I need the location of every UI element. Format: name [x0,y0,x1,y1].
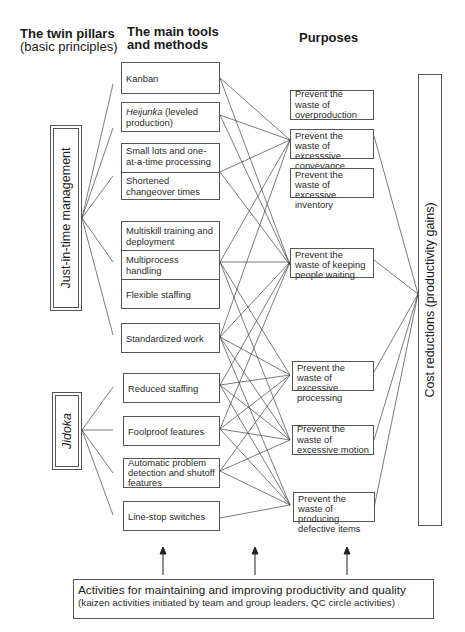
tool-heijunka: Heijunka (leveled production) [121,102,220,132]
tool-line-stop-switches: Line-stop switches [123,501,220,531]
purposes-header: Purposes [299,31,358,44]
tool-small-lots: Small lots and one-at-a-time processing [121,143,220,173]
purpose-processing: Prevent the waste of excessive processin… [292,361,374,391]
outcome-cost-reductions: Cost reductions (productivity gains) [418,74,442,526]
tool-shortened-changeover: Shortened changeover times [121,172,220,200]
connector-lines [0,0,465,632]
pillar-jidoka: Jidoka [52,392,82,470]
tool-multiprocess-handling: Multiprocess handling [121,250,220,280]
pillar-just-in-time: Just-in-time management [50,125,82,311]
tool-foolproof-features: Foolproof features [123,416,220,446]
pillars-header: The twin pillars (basic principles) [20,27,118,53]
tool-reduced-staffing: Reduced staffing [123,373,220,403]
purpose-motion: Prevent the waste of excessive motion [292,425,374,455]
tool-kanban: Kanban [121,62,220,94]
purpose-overproduction: Prevent the waste of overproduction [290,90,374,120]
tool-automatic-problem-detection: Automatic problem detection and shutoff … [123,458,220,488]
tool-flexible-staffing: Flexible staffing [121,279,220,309]
tool-multiskill-training: Multiskill training and deployment [121,221,220,251]
purpose-conveyance: Prevent the waste of excesssive conveyan… [290,129,374,159]
tool-standardized-work: Standardized work [121,323,220,353]
purpose-defective: Prevent the waste of producing defective… [293,492,375,522]
tools-header: The main tools and methods [127,25,219,51]
activities-subtitle: (kaizen activities initiated by team and… [78,597,429,609]
pillar-jidoka-label: Jidoka [60,413,74,449]
pillars-header-subtitle: (basic principles) [20,39,118,54]
tools-header-line2: and methods [127,37,208,52]
activities-title: Activities for maintaining and improving… [78,583,429,597]
pillar-just-in-time-label: Just-in-time management [59,147,73,288]
activities-box: Activities for maintaining and improving… [73,579,434,619]
outcome-cost-reductions-label: Cost reductions (productivity gains) [423,202,437,397]
purpose-waiting: Prevent the waste of keeping people wait… [290,248,374,278]
purposes-header-title: Purposes [299,30,358,45]
purpose-inventory: Prevent the waste of excessive inventory [290,168,374,198]
